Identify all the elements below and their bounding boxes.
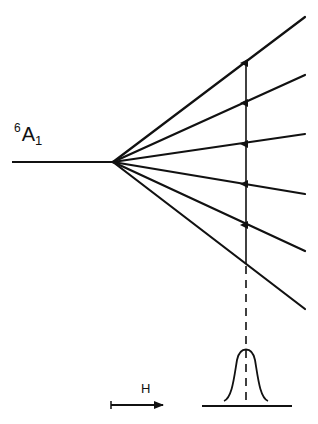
split-level-4 (113, 162, 305, 194)
split-level-5 (113, 162, 305, 251)
split-level-6 (113, 162, 305, 309)
magnetic-field-label: H (141, 381, 150, 396)
state-multiplicity: 6 (14, 121, 21, 135)
split-level-1 (113, 17, 305, 162)
state-subscript: 1 (35, 133, 42, 148)
zeeman-split-levels (113, 17, 305, 309)
state-term: A (22, 123, 35, 145)
energy-level-diagram (0, 0, 318, 424)
state-label: 6A1 (14, 121, 42, 148)
